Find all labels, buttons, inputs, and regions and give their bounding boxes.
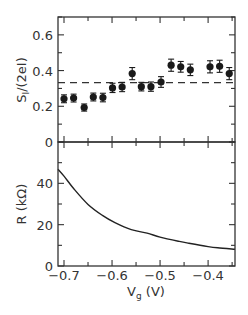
y-tick-label: 0.6 — [32, 28, 53, 43]
y-tick-label: 0 — [45, 135, 53, 150]
marker-circle — [70, 94, 77, 101]
marker-circle — [147, 83, 154, 90]
data-point — [206, 61, 213, 73]
data-point — [157, 77, 164, 88]
data-point — [90, 93, 97, 101]
marker-circle — [81, 104, 88, 111]
data-point — [119, 82, 126, 91]
marker-circle — [206, 63, 213, 70]
marker-circle — [168, 62, 175, 69]
data-point — [60, 95, 67, 103]
marker-circle — [99, 94, 106, 101]
data-point — [81, 104, 88, 111]
top-y-axis-title: SI/(2eI) — [14, 57, 31, 103]
bottom-panel-y-tick-labels: 02040 — [36, 176, 53, 274]
marker-circle — [226, 70, 233, 77]
figure: 00.20.40.6 02040 −0.7−0.6−0.5−0.4 SI/(2e… — [0, 0, 248, 315]
data-point — [70, 94, 77, 102]
marker-circle — [109, 84, 116, 91]
marker-circle — [60, 95, 67, 102]
x-tick-label: −0.5 — [144, 268, 176, 283]
marker-circle — [157, 78, 164, 85]
data-point — [129, 68, 136, 80]
bottom-y-axis-title: R (kΩ) — [14, 184, 29, 225]
data-point — [177, 61, 184, 72]
x-tick-labels: −0.7−0.6−0.5−0.4 — [48, 268, 224, 283]
data-point — [138, 82, 145, 91]
data-point — [109, 83, 116, 92]
data-point — [99, 93, 106, 102]
bottom-panel-resistance: 02040 −0.7−0.6−0.5−0.4 — [36, 142, 235, 283]
data-point — [147, 82, 154, 91]
y-tick-label: 40 — [36, 176, 53, 191]
marker-circle — [216, 63, 223, 70]
x-tick-label: −0.6 — [96, 268, 128, 283]
marker-circle — [129, 70, 136, 77]
marker-circle — [187, 66, 194, 73]
data-points — [60, 59, 232, 111]
resistance-curve — [58, 169, 235, 249]
top-panel-frame — [58, 17, 235, 142]
marker-circle — [138, 83, 145, 90]
marker-circle — [90, 93, 97, 100]
x-axis-title: Vg (V) — [127, 284, 165, 301]
y-tick-label: 0.4 — [32, 64, 53, 79]
bottom-panel-frame — [58, 142, 235, 266]
y-tick-label: 0.2 — [32, 99, 53, 114]
data-point — [226, 68, 233, 80]
x-tick-label: −0.4 — [192, 268, 224, 283]
x-tick-label: −0.7 — [48, 268, 80, 283]
marker-circle — [177, 63, 184, 70]
y-tick-label: 20 — [36, 218, 53, 233]
marker-circle — [119, 83, 126, 90]
bottom-panel-ticks — [58, 142, 235, 266]
data-point — [168, 59, 175, 71]
data-point — [187, 64, 194, 75]
top-panel-noise: 00.20.40.6 — [32, 17, 235, 150]
data-point — [216, 60, 223, 72]
top-panel-y-tick-labels: 00.20.40.6 — [32, 28, 53, 150]
